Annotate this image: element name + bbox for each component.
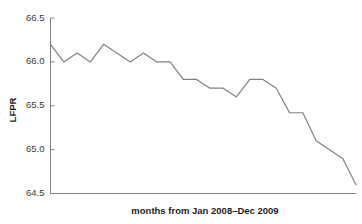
y-axis-tick-label: 64.5: [26, 187, 45, 198]
y-axis-tick-label: 65.5: [26, 99, 45, 110]
data-series-line: [51, 44, 357, 184]
y-axis-title: LFPR: [7, 97, 18, 122]
x-axis-title: months from Jan 2008–Dec 2009: [131, 205, 278, 216]
y-axis-tick-label: 66.0: [26, 55, 45, 66]
y-axis-tick-label: 66.5: [26, 12, 45, 23]
y-axis-tick-label: 65.0: [26, 143, 45, 154]
chart-figure: 64.565.065.566.066.5 LFPR months from Ja…: [0, 0, 362, 224]
y-axis-tick-labels: 64.565.065.566.066.5: [26, 12, 45, 199]
line-chart: 64.565.065.566.066.5 LFPR months from Ja…: [0, 0, 362, 224]
